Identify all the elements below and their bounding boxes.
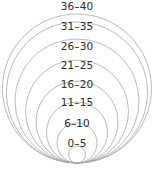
ring-label-36-40: 36–40 (0, 1, 154, 12)
ring-label-21-25: 21–25 (0, 60, 154, 71)
ring-label-26-30: 26–30 (0, 41, 154, 52)
nested-circles-diagram: 36–40 31–35 26–30 21–25 16–20 11–15 6–10… (0, 0, 154, 169)
ring-label-6-10: 6–10 (0, 118, 154, 129)
ring-label-11-15: 11–15 (0, 97, 154, 108)
ring-label-16-20: 16–20 (0, 79, 154, 90)
ring-label-0-5: 0–5 (0, 138, 154, 149)
circle-ring-11-15 (47, 102, 108, 163)
ring-label-31-35: 31–35 (0, 21, 154, 32)
